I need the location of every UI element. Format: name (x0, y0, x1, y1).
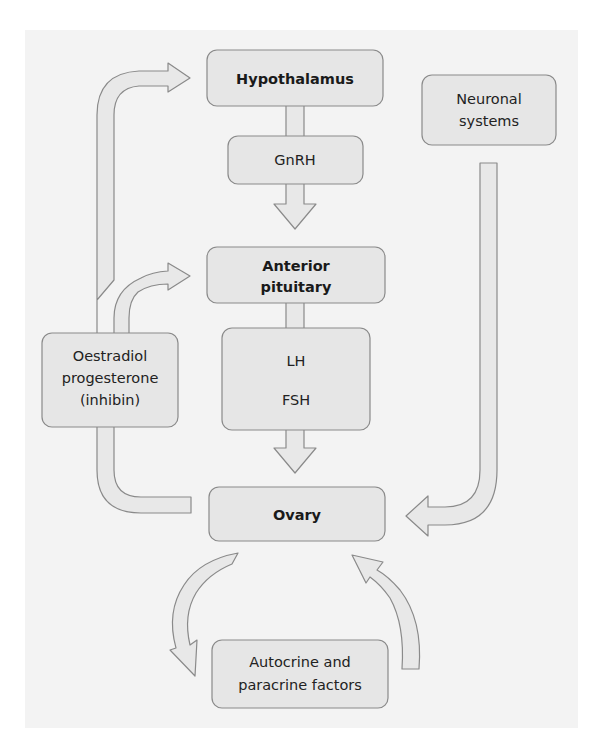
ovary-to-steroids-connector (97, 423, 191, 513)
node-local-factors: Autocrine and paracrine factors (212, 640, 388, 708)
node-anterior-pituitary-line-1: Anterior (262, 258, 330, 274)
node-ovary: Ovary (209, 487, 385, 541)
node-ovarian-steroids-line-3: (inhibin) (80, 392, 140, 408)
node-ovarian-steroids-line-2: progesterone (62, 370, 159, 386)
node-gonadotropins-line-2: FSH (282, 392, 310, 408)
node-ovary-label: Ovary (273, 507, 322, 523)
node-hypothalamus: Hypothalamus (207, 50, 383, 106)
steroids-to-pituitary-feedback-arrow (114, 263, 190, 337)
hpo-axis-diagram: Hypothalamus GnRH Neuronal systems Anter… (0, 0, 595, 746)
node-neuronal-systems-line-2: systems (459, 113, 519, 129)
node-gonadotropins: LH FSH (222, 328, 370, 430)
node-ovarian-steroids: Oestradiol progesterone (inhibin) (42, 333, 178, 427)
node-gnrh: GnRH (228, 136, 363, 184)
gonadotropins-to-ovary-arrow (274, 426, 316, 473)
node-anterior-pituitary-line-2: pituitary (261, 279, 332, 295)
node-gnrh-label: GnRH (274, 152, 315, 168)
node-neuronal-systems: Neuronal systems (422, 75, 556, 145)
steroids-to-hypothalamus-feedback-arrow (97, 63, 190, 337)
neuronal-to-ovary-arrow (406, 163, 497, 536)
gnrh-to-pituitary-arrow (274, 180, 316, 229)
node-anterior-pituitary: Anterior pituitary (207, 247, 385, 303)
node-neuronal-systems-line-1: Neuronal (456, 91, 522, 107)
node-hypothalamus-label: Hypothalamus (236, 71, 354, 87)
node-gonadotropins-line-1: LH (287, 353, 306, 369)
node-ovarian-steroids-line-1: Oestradiol (73, 348, 148, 364)
node-local-factors-line-2: paracrine factors (238, 677, 362, 693)
node-local-factors-line-1: Autocrine and (249, 654, 351, 670)
